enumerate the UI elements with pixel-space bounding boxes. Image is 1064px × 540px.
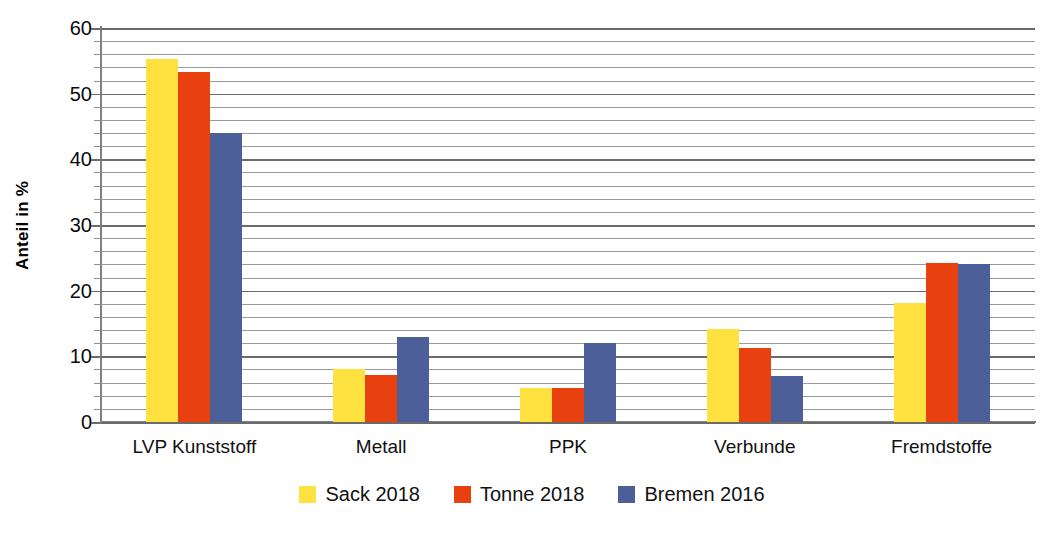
bar[interactable] bbox=[365, 375, 397, 422]
legend-label: Tonne 2018 bbox=[480, 483, 585, 506]
y-axis-tick-labels: 0102030405060 bbox=[28, 0, 92, 540]
y-tick-minor bbox=[94, 199, 100, 200]
y-tick-major bbox=[91, 356, 100, 358]
bar[interactable] bbox=[210, 133, 242, 422]
y-tick-label: 0 bbox=[46, 412, 92, 432]
y-tick-minor bbox=[94, 409, 100, 410]
y-tick-major bbox=[91, 28, 100, 30]
chart-legend: Sack 2018Tonne 2018Bremen 2016 bbox=[0, 483, 1064, 506]
y-tick-minor bbox=[94, 146, 100, 147]
bar[interactable] bbox=[926, 263, 958, 422]
bar[interactable] bbox=[178, 72, 210, 422]
bar[interactable] bbox=[520, 388, 552, 422]
bar[interactable] bbox=[739, 348, 771, 422]
y-tick-major bbox=[91, 225, 100, 227]
x-axis-label: LVP Kunststoff bbox=[101, 436, 288, 458]
bar-chart: Anteil in % 0102030405060 LVP Kunststoff… bbox=[0, 0, 1064, 540]
legend-item[interactable]: Tonne 2018 bbox=[454, 483, 585, 506]
y-tick-minor bbox=[94, 396, 100, 397]
bar[interactable] bbox=[552, 388, 584, 422]
y-tick-minor bbox=[94, 330, 100, 331]
legend-label: Sack 2018 bbox=[325, 483, 420, 506]
y-tick-minor bbox=[94, 264, 100, 265]
x-axis-label: Metall bbox=[288, 436, 475, 458]
y-tick-label: 60 bbox=[46, 18, 92, 38]
y-tick-minor bbox=[94, 54, 100, 55]
y-tick-major bbox=[91, 291, 100, 293]
bar[interactable] bbox=[584, 343, 616, 422]
bar[interactable] bbox=[894, 303, 926, 422]
y-tick-label: 20 bbox=[46, 281, 92, 301]
y-tick-minor bbox=[94, 251, 100, 252]
y-tick-label: 30 bbox=[46, 215, 92, 235]
bar[interactable] bbox=[333, 369, 365, 422]
y-tick-minor bbox=[94, 172, 100, 173]
legend-label: Bremen 2016 bbox=[644, 483, 764, 506]
y-tick-major bbox=[91, 94, 100, 96]
legend-swatch-icon bbox=[618, 486, 635, 503]
bar[interactable] bbox=[771, 376, 803, 422]
y-tick-minor bbox=[94, 107, 100, 108]
legend-item[interactable]: Sack 2018 bbox=[299, 483, 420, 506]
y-tick-minor bbox=[94, 383, 100, 384]
bar[interactable] bbox=[707, 329, 739, 422]
y-tick-minor bbox=[94, 238, 100, 239]
plot-area bbox=[101, 28, 1035, 422]
y-tick-minor bbox=[94, 120, 100, 121]
y-tick-minor bbox=[94, 41, 100, 42]
bar-group bbox=[520, 28, 616, 422]
bar-group bbox=[333, 28, 429, 422]
bar-group bbox=[707, 28, 803, 422]
y-tick-minor bbox=[94, 369, 100, 370]
x-axis-label: Verbunde bbox=[661, 436, 848, 458]
bar-group bbox=[894, 28, 990, 422]
y-tick-major bbox=[91, 422, 100, 424]
y-tick-label: 50 bbox=[46, 84, 92, 104]
y-tick-minor bbox=[94, 317, 100, 318]
gridline-major bbox=[101, 422, 1035, 424]
x-axis-label: PPK bbox=[475, 436, 662, 458]
y-tick-minor bbox=[94, 81, 100, 82]
bar[interactable] bbox=[146, 59, 178, 422]
y-tick-minor bbox=[94, 133, 100, 134]
x-axis-label: Fremdstoffe bbox=[848, 436, 1035, 458]
bar-group bbox=[146, 28, 242, 422]
bar[interactable] bbox=[397, 337, 429, 422]
legend-item[interactable]: Bremen 2016 bbox=[618, 483, 764, 506]
y-tick-minor bbox=[94, 186, 100, 187]
y-tick-label: 10 bbox=[46, 346, 92, 366]
y-tick-major bbox=[91, 159, 100, 161]
legend-swatch-icon bbox=[299, 486, 316, 503]
y-tick-minor bbox=[94, 67, 100, 68]
legend-swatch-icon bbox=[454, 486, 471, 503]
y-tick-minor bbox=[94, 304, 100, 305]
bar[interactable] bbox=[958, 264, 990, 422]
y-tick-minor bbox=[94, 212, 100, 213]
y-tick-label: 40 bbox=[46, 149, 92, 169]
y-tick-minor bbox=[94, 278, 100, 279]
y-tick-minor bbox=[94, 343, 100, 344]
